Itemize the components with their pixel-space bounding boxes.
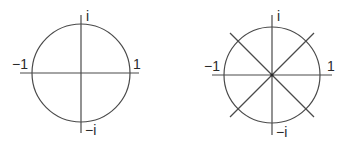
right-label-minus-one: −1 [204,59,220,73]
left-label-minus-one: −1 [12,57,28,71]
right-origin-dot [270,73,273,76]
left-diagram [20,15,139,133]
right-label-i: i [277,9,280,23]
left-label-one: 1 [133,57,141,71]
figure-canvas [0,0,345,143]
right-label-minus-i: −i [276,125,287,139]
right-label-one: 1 [327,59,335,73]
left-label-minus-i: −i [85,123,96,137]
left-label-i: i [86,9,89,23]
